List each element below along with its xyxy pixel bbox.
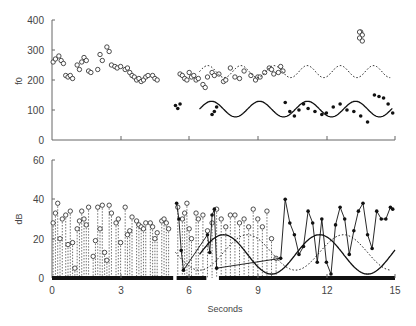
voicing-bar-segment	[177, 276, 207, 280]
top-ytick-300: 300	[27, 45, 44, 56]
filled-dot-point	[179, 249, 183, 253]
filled-dot-point	[329, 272, 333, 276]
open-circle-point	[98, 227, 102, 231]
open-circle-point	[98, 52, 102, 56]
filled-dot-point	[306, 107, 310, 111]
filled-dot-point	[283, 198, 287, 202]
bottom-ytick-60: 60	[33, 155, 45, 166]
voicing-bar-segment	[219, 276, 395, 280]
filled-dot-point	[213, 110, 217, 114]
open-circle-point	[125, 66, 129, 70]
filled-dot-point	[320, 217, 324, 221]
filled-dot-point	[359, 114, 363, 118]
open-circle-point	[265, 209, 269, 213]
bottom-ytick-40: 40	[33, 194, 45, 205]
open-circle-point	[118, 240, 122, 244]
filled-dot-point	[357, 209, 361, 213]
filled-dot-point	[177, 217, 181, 221]
filled-dot-point	[373, 93, 377, 97]
open-circle-point	[233, 75, 237, 79]
top-x-ticks	[121, 136, 395, 140]
open-circle-point	[360, 39, 364, 43]
open-circle-point	[96, 67, 100, 71]
open-circle-point	[102, 250, 106, 254]
open-circle-point	[192, 73, 196, 77]
open-circle-point	[166, 227, 170, 231]
open-circle-point	[164, 221, 168, 225]
filled-dot-point	[334, 223, 338, 227]
open-circle-point	[196, 217, 200, 221]
open-circle-point	[107, 49, 111, 53]
open-circle-point	[109, 211, 113, 215]
open-circle-point	[219, 217, 223, 221]
open-circle-point	[73, 266, 77, 270]
open-circle-point	[70, 240, 74, 244]
open-circle-point	[153, 236, 157, 240]
open-circle-point	[205, 75, 209, 79]
filled-dot-point	[176, 107, 180, 111]
open-circle-point	[224, 225, 228, 229]
open-circle-point	[80, 209, 84, 213]
filled-dot-point	[345, 108, 349, 112]
open-circle-point	[70, 76, 74, 80]
top-ytick-200: 200	[27, 75, 44, 86]
open-circle-point	[228, 66, 232, 70]
open-circle-point	[82, 217, 86, 221]
open-circle-point	[89, 70, 93, 74]
voicing-bar-segment	[52, 276, 173, 280]
open-circle-point	[77, 219, 81, 223]
filled-dot-point	[213, 207, 217, 211]
bottom-ytick-20: 20	[33, 234, 45, 245]
open-circle-point	[100, 203, 104, 207]
filled-dot-point	[352, 110, 356, 114]
xtick-15: 15	[389, 285, 401, 296]
open-circle-point	[57, 54, 61, 58]
open-circle-point	[77, 67, 81, 71]
open-circle-point	[246, 225, 250, 229]
open-circle-point	[269, 67, 273, 71]
connector-line	[177, 199, 393, 274]
filled-dot-point	[352, 229, 356, 233]
open-circle-point	[75, 63, 79, 67]
open-circle-point	[224, 78, 228, 82]
open-circle-point	[182, 211, 186, 215]
open-circle-point	[105, 45, 109, 49]
open-circle-point	[228, 213, 232, 217]
open-circle-point	[100, 58, 104, 62]
open-circle-point	[56, 201, 60, 205]
filled-dot-point	[343, 217, 347, 221]
filled-dot-point	[293, 233, 297, 237]
filled-dot-point	[215, 105, 219, 109]
open-circle-point	[91, 254, 95, 258]
filled-dot-point	[288, 221, 292, 225]
open-circle-point	[86, 205, 90, 209]
filled-dot-point	[208, 251, 212, 255]
filled-dot-point	[306, 209, 310, 213]
bottom-plot-area	[51, 198, 395, 280]
open-circle-point	[68, 209, 72, 213]
chart-canvas: 400 300 200 100 0 f0 60 40 20 0 dB	[0, 0, 416, 326]
open-circle-point	[242, 217, 246, 221]
filled-dot-point	[338, 102, 342, 106]
open-circle-point	[272, 72, 276, 76]
filled-dot-point	[182, 268, 186, 272]
open-circle-point	[201, 213, 205, 217]
open-circle-point	[58, 236, 62, 240]
top-panel: 400 300 200 100 0 f0	[14, 15, 395, 146]
top-y-axis-title: f0	[14, 77, 24, 85]
open-circle-point	[269, 236, 273, 240]
filled-dot-point	[279, 257, 283, 261]
open-circle-point	[150, 225, 154, 229]
filled-dot-point	[375, 209, 379, 213]
solid-sinusoid	[200, 101, 393, 117]
bottom-y-axis-title: dB	[14, 213, 24, 224]
open-circle-point	[203, 85, 207, 89]
open-circle-point	[205, 229, 209, 233]
open-circle-point	[189, 236, 193, 240]
filled-dot-point	[311, 221, 315, 225]
open-circle-point	[185, 201, 189, 205]
xtick-3: 3	[118, 285, 124, 296]
filled-dot-point	[391, 207, 395, 211]
filled-dot-point	[206, 233, 210, 237]
filled-dot-point	[175, 201, 179, 205]
